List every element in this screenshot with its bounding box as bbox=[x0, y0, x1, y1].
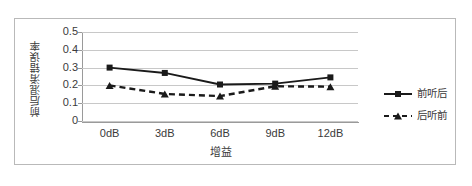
x-axis-title: 增益 bbox=[82, 143, 359, 159]
y-axis-tick-label: 0 bbox=[50, 115, 78, 126]
series-layer bbox=[82, 32, 358, 121]
chart-figure: 前后混淆错误率 0.50.40.30.20.10 0dB3dB6dB9dB12d… bbox=[0, 0, 472, 186]
y-axis-tick-label: 0.5 bbox=[50, 26, 78, 37]
legend-swatch-triangle bbox=[383, 108, 413, 120]
legend-swatch-square bbox=[383, 86, 413, 98]
x-axis-tick-label: 6dB bbox=[190, 127, 250, 139]
y-axis-tick-label: 0.3 bbox=[50, 62, 78, 73]
data-point-square-marker bbox=[107, 65, 113, 71]
y-axis-tick-labels: 0.50.40.30.20.10 bbox=[46, 19, 78, 166]
chart-frame: 前后混淆错误率 0.50.40.30.20.10 0dB3dB6dB9dB12d… bbox=[14, 18, 456, 165]
data-point-triangle-marker bbox=[326, 83, 334, 90]
legend-label: 前听后 bbox=[417, 85, 447, 100]
x-axis-tick-label: 0dB bbox=[80, 127, 140, 139]
y-axis-title: 前后混淆错误率 bbox=[27, 31, 43, 127]
x-axis-tick-label: 3dB bbox=[135, 127, 195, 139]
x-axis-line bbox=[82, 122, 359, 123]
plot-area bbox=[82, 32, 358, 121]
legend-label: 后听前 bbox=[417, 107, 447, 122]
data-point-square-marker bbox=[327, 74, 333, 80]
legend-entry-1[interactable]: 前听后 bbox=[383, 81, 457, 103]
series-1 bbox=[107, 65, 334, 88]
y-axis-tick-label: 0.4 bbox=[50, 44, 78, 55]
data-point-square-marker bbox=[395, 91, 401, 97]
legend-entry-2[interactable]: 后听前 bbox=[383, 103, 457, 125]
y-axis-tick-label: 0.1 bbox=[50, 97, 78, 108]
chart-legend: 前听后后听前 bbox=[383, 81, 457, 125]
x-axis-tick-label: 9dB bbox=[245, 127, 305, 139]
data-point-square-marker bbox=[162, 70, 168, 76]
y-axis-tick-label: 0.2 bbox=[50, 79, 78, 90]
x-axis-tick-label: 12dB bbox=[300, 127, 360, 139]
data-point-square-marker bbox=[217, 82, 223, 88]
